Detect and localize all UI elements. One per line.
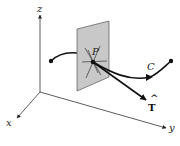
y-axis-label: y: [168, 122, 175, 133]
x-axis: [17, 92, 40, 118]
curve-direction-arrow: [146, 74, 153, 81]
x-axis-label: x: [6, 117, 12, 128]
curve-start-point: [49, 59, 53, 63]
curve-end-point: [169, 59, 173, 63]
point-p: [91, 60, 96, 65]
point-p-label: P: [91, 46, 99, 57]
curve-segment-left: [51, 53, 77, 61]
normal-plane-diagram: z x y P C ^ T: [0, 0, 180, 146]
tangent-label: T: [148, 102, 156, 113]
z-axis-label: z: [36, 3, 43, 14]
tangent-vector: [93, 62, 146, 100]
curve-c-label: C: [147, 61, 155, 72]
